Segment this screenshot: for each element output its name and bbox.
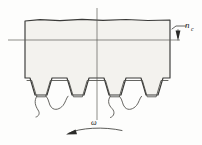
feed-label-subscript: c	[191, 26, 194, 32]
feed-direction-arrow	[172, 26, 186, 41]
rotation-label-omega: ω	[91, 118, 97, 127]
rotation-direction-arrow	[66, 128, 122, 134]
gear-cutting-figure: n c ω	[0, 0, 202, 145]
cut-path-curve-1	[35, 96, 39, 117]
figure-canvas: n c ω	[0, 0, 202, 145]
cut-path-curve-4	[120, 96, 142, 109]
cut-path-curve-2	[46, 96, 68, 109]
gear-blank-outline	[25, 19, 170, 95]
cut-path-curve-3	[109, 97, 114, 118]
feed-label-n: n	[185, 20, 190, 30]
